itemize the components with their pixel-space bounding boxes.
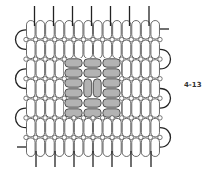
bead [55,21,64,40]
bead [151,138,160,157]
bead [74,40,83,59]
bead [151,40,160,59]
figure-label: 4-13 [184,81,202,89]
bead [84,40,93,59]
bead [122,60,131,79]
bead [36,138,45,157]
bead [141,138,150,157]
gray-bead [103,69,120,77]
bead [65,118,74,137]
gray-bead [84,69,101,77]
bead [27,40,36,59]
bead [27,118,36,137]
gray-bead [103,79,120,87]
bead [55,138,64,157]
bead [132,60,141,79]
bead [113,40,122,59]
bead [122,40,131,59]
bead [151,79,160,98]
bead [46,138,55,157]
gray-bead [93,79,101,97]
gray-bead [65,99,82,107]
bead [84,138,93,157]
bead [103,40,112,59]
bead [93,138,102,157]
bead [132,118,141,137]
bead [55,60,64,79]
gray-bead [65,59,82,67]
bead [132,40,141,59]
bead [141,79,150,98]
bead [141,60,150,79]
gray-bead [65,89,82,97]
gray-bead [103,89,120,97]
bead [122,99,131,118]
bead [46,79,55,98]
bead [132,138,141,157]
gray-bead [84,99,101,107]
gray-bead [65,79,82,87]
bead [141,118,150,137]
bead [151,60,160,79]
bead [132,79,141,98]
gray-bead [84,79,92,97]
bead [36,21,45,40]
bead [93,118,102,137]
bead [55,79,64,98]
bead [55,40,64,59]
bead [113,21,122,40]
gray-bead-block [64,58,121,118]
bead [141,40,150,59]
bead [27,79,36,98]
bead [74,21,83,40]
bead [46,40,55,59]
bead [27,99,36,118]
bead [65,138,74,157]
bead [36,79,45,98]
bead [27,60,36,79]
gray-bead [103,99,120,107]
bead [27,21,36,40]
bead [46,60,55,79]
bead [36,60,45,79]
bead [151,99,160,118]
bead [84,118,93,137]
bead [113,138,122,157]
bead [55,99,64,118]
bead [55,118,64,137]
gray-bead [103,59,120,67]
bead [141,99,150,118]
bead [151,118,160,137]
bead [103,118,112,137]
bead [65,40,74,59]
bead [103,138,112,157]
bead [27,138,36,157]
bead [132,21,141,40]
bead [132,99,141,118]
bead [122,79,131,98]
bead-diagram [0,0,208,176]
bead [36,99,45,118]
gray-bead [84,59,101,67]
bead [122,138,131,157]
bead [151,21,160,40]
bead [74,118,83,137]
bead [74,138,83,157]
bead [113,118,122,137]
bead [93,21,102,40]
bead [122,118,131,137]
bead [46,99,55,118]
bead [93,40,102,59]
gray-bead [65,69,82,77]
bead [46,118,55,137]
bead [36,40,45,59]
bead [36,118,45,137]
